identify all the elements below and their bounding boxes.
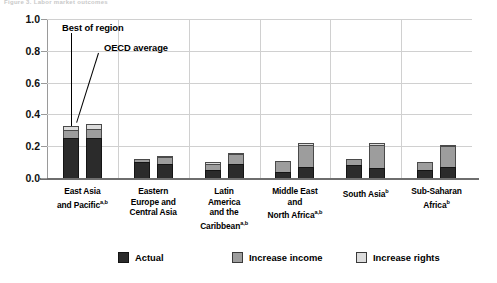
bar[interactable] bbox=[275, 161, 291, 178]
bar-segment-actual bbox=[86, 138, 102, 178]
bar-segment-income bbox=[63, 130, 79, 138]
y-axis-tick bbox=[41, 83, 47, 84]
bar[interactable] bbox=[86, 124, 102, 178]
legend-item-actual[interactable]: Actual bbox=[118, 252, 164, 263]
y-axis-tick-label: 0.2 bbox=[2, 141, 40, 152]
category-footnote-marker: b bbox=[446, 199, 449, 205]
category-footnote-marker: a,b bbox=[314, 209, 322, 215]
bar-segment-actual bbox=[157, 164, 173, 178]
legend-swatch-income bbox=[232, 252, 243, 263]
y-axis-tick-label: 0.4 bbox=[2, 109, 40, 120]
annotation-label: Best of region bbox=[62, 22, 124, 33]
bar-segment-actual bbox=[63, 138, 79, 178]
x-axis-line bbox=[40, 178, 479, 180]
bar[interactable] bbox=[157, 156, 173, 178]
bar[interactable] bbox=[346, 159, 362, 178]
category-footnote-marker: b bbox=[385, 188, 388, 194]
bar-segment-actual bbox=[228, 164, 244, 178]
bar-segment-actual bbox=[275, 172, 291, 178]
y-axis-tick-label: 0.6 bbox=[2, 78, 40, 89]
category-label: Sub-SaharanAfricab bbox=[393, 186, 480, 210]
y-axis-tick bbox=[41, 114, 47, 115]
bar[interactable] bbox=[63, 126, 79, 178]
bar[interactable] bbox=[205, 162, 221, 178]
chart-container: Figure 3. Labor market outcomes 0.00.20.… bbox=[0, 0, 497, 283]
bar-segment-income bbox=[440, 146, 456, 167]
chart-legend: ActualIncrease incomeIncrease rights bbox=[0, 252, 497, 272]
annotation-leader-line bbox=[71, 33, 72, 126]
bar-segment-income bbox=[228, 154, 244, 164]
y-axis-tick-labels: 0.00.20.40.60.81.0 bbox=[0, 0, 40, 283]
legend-swatch-rights bbox=[356, 252, 367, 263]
bar-segment-actual bbox=[440, 167, 456, 178]
category-footnote-marker: a,b bbox=[100, 199, 108, 205]
bar-segment-income bbox=[86, 129, 102, 139]
bar[interactable] bbox=[298, 143, 314, 178]
y-axis-tick-label: 0.0 bbox=[2, 173, 40, 184]
y-axis-tick-label: 0.8 bbox=[2, 46, 40, 57]
y-axis-tick bbox=[41, 146, 47, 147]
bar-group bbox=[189, 19, 260, 178]
bar-segment-actual bbox=[369, 168, 385, 178]
legend-label: Increase income bbox=[249, 252, 322, 263]
bar-segment-income bbox=[275, 161, 291, 172]
bar-segment-actual bbox=[346, 165, 362, 178]
legend-swatch-actual bbox=[118, 252, 129, 263]
legend-label: Actual bbox=[135, 252, 164, 263]
category-label-line: Sub-Saharan bbox=[393, 186, 480, 197]
bar-segment-actual bbox=[205, 170, 221, 178]
bar[interactable] bbox=[440, 145, 456, 178]
legend-item-rights[interactable]: Increase rights bbox=[356, 252, 440, 263]
bar-group bbox=[330, 19, 401, 178]
y-axis-tick bbox=[41, 178, 47, 179]
y-axis-tick-label: 1.0 bbox=[2, 14, 40, 25]
legend-item-income[interactable]: Increase income bbox=[232, 252, 322, 263]
bar-group bbox=[260, 19, 331, 178]
bar-segment-actual bbox=[298, 167, 314, 178]
bar[interactable] bbox=[134, 159, 150, 178]
category-label-line: North Africaa,b bbox=[252, 207, 339, 220]
bar-segment-actual bbox=[134, 162, 150, 178]
category-label-line: Africab bbox=[393, 197, 480, 210]
y-axis-tick bbox=[41, 19, 47, 20]
bar-segment-income bbox=[369, 145, 385, 169]
bar[interactable] bbox=[417, 162, 433, 178]
bar-segment-income bbox=[417, 162, 433, 170]
bar-group bbox=[401, 19, 472, 178]
y-axis-tick bbox=[41, 51, 47, 52]
legend-label: Increase rights bbox=[373, 252, 440, 263]
bar[interactable] bbox=[228, 153, 244, 178]
category-footnote-marker: a,b bbox=[240, 220, 248, 226]
bar-segment-actual bbox=[417, 170, 433, 178]
bar[interactable] bbox=[369, 143, 385, 178]
bar-segment-income bbox=[298, 145, 314, 167]
annotation-label: OECD average bbox=[104, 42, 168, 53]
